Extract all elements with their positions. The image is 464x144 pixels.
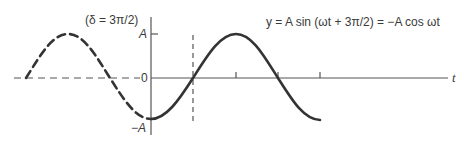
y-label-zero: 0 [141, 72, 148, 84]
phase-diagram: (δ = 3π/2) y = A sin (ωt + 3π/2) = −A co… [0, 0, 464, 144]
dashed-sine-curve [26, 34, 151, 119]
phase-label: (δ = 3π/2) [85, 14, 138, 26]
y-label-a: A [139, 28, 147, 40]
equation-label: y = A sin (ωt + 3π/2) = −A cos ωt [266, 16, 440, 28]
t-axis-label: t [452, 71, 456, 84]
y-label-minus-a: −A [131, 122, 146, 134]
